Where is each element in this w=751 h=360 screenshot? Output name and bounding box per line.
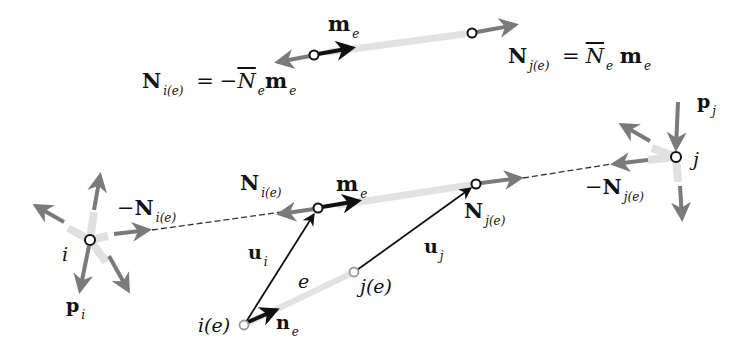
node-circle-icon bbox=[310, 51, 319, 60]
label-N-j: Nj(e) bbox=[464, 200, 505, 222]
node-circle-icon bbox=[468, 29, 477, 38]
label-element-e: e bbox=[298, 272, 309, 291]
label-neg-N-j: −Nj(e) bbox=[585, 176, 644, 198]
label-node-i: i bbox=[62, 245, 68, 264]
label-neg-N-i: −Ni(e) bbox=[117, 197, 176, 219]
neg-N-j-arrow-icon bbox=[614, 160, 648, 164]
reference-element bbox=[240, 188, 472, 330]
neg-N-i-arrow-icon bbox=[114, 230, 148, 234]
label-n-e: ne bbox=[276, 313, 299, 332]
node-i-star bbox=[36, 176, 148, 290]
equation-N-j: Nj(e) =Ne me bbox=[508, 45, 651, 67]
label-m-e-top: me bbox=[328, 13, 359, 34]
ref-node-j-circle-icon bbox=[350, 268, 359, 277]
label-node-j: j bbox=[693, 150, 699, 169]
label-u-j: uj bbox=[424, 237, 444, 256]
top-inset-element bbox=[278, 25, 515, 62]
label-p-j: pj bbox=[697, 92, 716, 111]
equation-N-i: Ni(e) =−Neme bbox=[142, 70, 296, 92]
label-ref-j-e: j(e) bbox=[360, 277, 392, 296]
label-u-i: ui bbox=[248, 243, 268, 262]
ref-node-i-circle-icon bbox=[240, 321, 249, 330]
force-arrow-right-icon bbox=[477, 25, 515, 32]
node-j-circle-icon bbox=[671, 152, 681, 162]
node-i-circle-icon bbox=[85, 235, 95, 245]
N-i-arrow-icon bbox=[280, 209, 314, 214]
label-N-i: Ni(e) bbox=[240, 172, 282, 194]
deformed-node-i-circle-icon bbox=[314, 204, 323, 213]
label-ref-i-e: i(e) bbox=[198, 316, 230, 335]
force-arrow-left-icon bbox=[278, 56, 310, 62]
deformed-node-j-circle-icon bbox=[472, 180, 481, 189]
label-p-i: pi bbox=[66, 296, 85, 315]
N-j-arrow-icon bbox=[481, 178, 520, 183]
label-m-e: me bbox=[336, 173, 367, 194]
load-p-j-arrow-icon bbox=[676, 102, 678, 148]
load-p-i-arrow-icon bbox=[80, 246, 89, 290]
diagram-canvas: me Ni(e) =−Neme Nj(e) =Ne me i pi −Ni(e)… bbox=[0, 0, 751, 360]
